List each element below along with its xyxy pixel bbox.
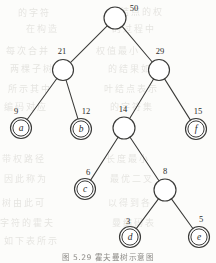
tree-internal-node: [53, 60, 74, 81]
node-weight-label: 8: [163, 166, 167, 176]
node-circle: [104, 7, 126, 29]
figure-page: 的字符结点的权在构造的过程中每次合并权值最小两棵子树的结果如所示其中叶结点表示编…: [0, 0, 216, 263]
huffman-tree-diagram: abfcde 50212991214156835: [0, 0, 216, 263]
tree-node-layer: abfcde: [11, 7, 210, 248]
tree-leaf-node: f: [186, 119, 207, 140]
tree-edge: [136, 199, 158, 229]
node-weight-label: 9: [14, 106, 18, 116]
node-weight-label: 6: [86, 167, 90, 177]
tree-leaf-node: d: [120, 227, 141, 248]
tree-edge: [70, 26, 107, 63]
node-circle: [53, 60, 74, 81]
node-weight-label: 14: [119, 104, 128, 114]
tree-internal-node: [104, 7, 126, 29]
node-circle: [149, 60, 170, 81]
tree-internal-node: [113, 117, 135, 139]
tree-edge: [165, 79, 191, 120]
figure-caption: 图 5.29 霍夫曼树示意图: [0, 251, 216, 262]
tree-edge: [91, 137, 118, 180]
tree-internal-node: [149, 60, 170, 81]
tree-leaf-node: a: [11, 118, 32, 139]
node-weight-label: 50: [130, 3, 139, 13]
tree-edge: [122, 26, 152, 62]
tree-edge: [130, 79, 154, 119]
leaf-symbol-label: d: [128, 232, 133, 242]
node-weight-label: 29: [156, 46, 165, 56]
tree-leaf-node: e: [189, 227, 210, 248]
node-circle: [154, 179, 176, 201]
tree-internal-node: [154, 179, 176, 201]
tree-leaf-node: c: [75, 179, 96, 200]
tree-leaf-node: b: [71, 119, 92, 140]
tree-edge: [27, 79, 57, 120]
node-circle: [113, 117, 135, 139]
node-weight-label: 21: [58, 46, 67, 56]
leaf-symbol-label: a: [19, 123, 24, 133]
tree-edge: [66, 80, 78, 119]
tree-edge: [171, 199, 192, 229]
node-weight-label: 5: [199, 214, 203, 224]
node-weight-label: 15: [194, 106, 203, 116]
tree-edge: [130, 137, 159, 181]
node-weight-label: 3: [126, 216, 130, 226]
leaf-symbol-label: e: [197, 232, 201, 242]
leaf-symbol-label: b: [79, 124, 84, 134]
node-weight-label: 12: [82, 106, 91, 116]
